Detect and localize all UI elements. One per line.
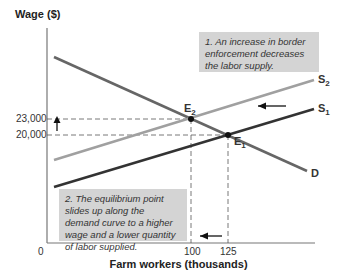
arrow-up-wage-icon	[54, 116, 61, 131]
y-tick-20000: 20,000	[16, 129, 47, 140]
label-e2: E2	[184, 102, 196, 117]
annotation-1: 1. An increase in border enforcement dec…	[199, 32, 319, 72]
equilibrium-e1	[225, 132, 231, 138]
label-s2: S2	[318, 73, 330, 88]
label-e1: E1	[234, 135, 246, 150]
annotation-2: 2. The equilibrium point slides up along…	[59, 189, 187, 241]
demand-curve	[54, 57, 307, 171]
x-tick-125: 125	[220, 246, 237, 257]
label-d: D	[311, 167, 319, 179]
arrow-left-quantity-icon	[200, 233, 222, 240]
x-axis-label: Farm workers (thousands)	[0, 258, 337, 270]
y-tick-23000: 23,000	[16, 113, 47, 124]
arrow-left-supply-icon	[258, 103, 286, 110]
label-s1: S1	[318, 102, 330, 117]
x-tick-0: 0	[38, 246, 44, 257]
x-tick-100: 100	[184, 246, 201, 257]
